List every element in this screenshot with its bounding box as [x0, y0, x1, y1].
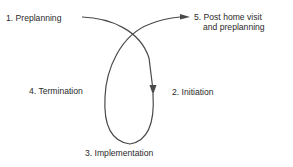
stage-5-text-line2: and preplanning — [194, 22, 265, 32]
stage-2-initiation-label: 2. Initiation — [172, 87, 214, 97]
stage-5-post-home-visit-label: 5. Post home visit and preplanning — [194, 12, 265, 32]
stage-3-text: 3. Implementation — [85, 148, 153, 158]
stage-2-text: 2. Initiation — [172, 87, 214, 97]
stage-1-text: 1. Preplanning — [6, 13, 61, 23]
curve-initiation-implementation-termination — [105, 17, 180, 144]
home-visit-process-diagram: 1. Preplanning 5. Post home visit and pr… — [0, 0, 293, 167]
stage-1-preplanning-label: 1. Preplanning — [6, 13, 61, 23]
stage-4-termination-label: 4. Termination — [29, 86, 83, 96]
arrow-down-icon — [150, 85, 157, 95]
stage-3-implementation-label: 3. Implementation — [85, 148, 153, 158]
arrow-right-icon — [180, 14, 190, 20]
stage-4-text: 4. Termination — [29, 86, 83, 96]
stage-5-text-line1: 5. Post home visit — [194, 12, 265, 22]
